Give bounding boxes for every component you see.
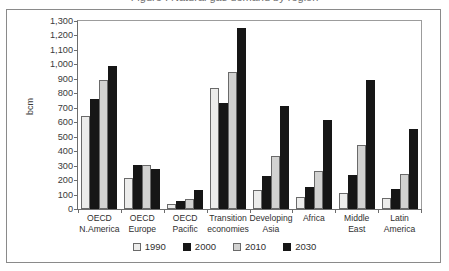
legend-item-2000[interactable]: 2000: [183, 242, 216, 251]
figure-title-text: Figure : Natural gas demand by region: [131, 0, 319, 3]
legend-label-2030: 2030: [295, 242, 316, 251]
x-axis-label-line1: Developing: [249, 213, 292, 223]
bar-2000-oecd-europe: [133, 165, 142, 209]
legend-item-2010[interactable]: 2010: [233, 242, 266, 251]
x-axis-label-oecd-pacific: OECDPacific: [164, 213, 207, 234]
bar-2010-oecd-pacific: [185, 199, 194, 209]
bar-2000-middle-east: [348, 175, 357, 209]
bar-2030-oecd-europe: [151, 169, 160, 209]
bar-1990-middle-east: [339, 193, 348, 209]
x-axis-label-line1: Transition: [209, 213, 246, 223]
x-axis-category-labels: OECDN.AmericaOECDEuropeOECDPacificTransi…: [78, 213, 421, 234]
bar-2030-africa: [323, 120, 332, 209]
bar-2000-oecd-pacific: [176, 201, 185, 209]
y-axis-tick-0: 0: [68, 205, 73, 214]
y-axis-tick-200: 200: [58, 176, 73, 185]
x-axis-label-middle-east: MiddleEast: [335, 213, 378, 234]
bar-group-oecd-pacific: [164, 21, 207, 209]
bar-2000-latin-america: [391, 189, 400, 209]
legend-label-2000: 2000: [195, 242, 216, 251]
legend-label-1990: 1990: [145, 242, 166, 251]
bar-1990-oecd-n-america: [81, 116, 90, 209]
bar-group-developing-asia: [250, 21, 293, 209]
x-axis-label-transition-economies: Transitioneconomies: [207, 213, 250, 234]
bar-2030-oecd-pacific: [194, 190, 203, 209]
legend-swatch-2010: [233, 243, 241, 251]
bar-2010-oecd-europe: [142, 165, 151, 209]
bar-group-transition-economies: [207, 21, 250, 209]
bar-2000-oecd-n-america: [90, 99, 99, 209]
x-axis-label-africa: Africa: [292, 213, 335, 234]
y-axis-tick-1,100: 1,100: [50, 45, 73, 54]
x-axis-label-line2: East: [335, 224, 378, 235]
bar-2030-oecd-n-america: [108, 66, 117, 209]
y-axis-tick-1,300: 1,300: [50, 17, 73, 26]
legend-item-1990[interactable]: 1990: [133, 242, 166, 251]
y-axis-tick-labels: 01002003004005006007008009001,0001,1001,…: [29, 20, 73, 210]
y-axis-tick-400: 400: [58, 147, 73, 156]
bar-2030-latin-america: [409, 129, 418, 209]
bar-group-oecd-n-america: [78, 21, 121, 209]
legend-label-2010: 2010: [245, 242, 266, 251]
x-axis-label-line1: Africa: [303, 213, 325, 223]
x-axis-label-line1: Middle: [344, 213, 369, 223]
figure-page: Figure : Natural gas demand by region bc…: [0, 0, 449, 271]
bar-groups: [78, 21, 421, 209]
bar-2000-transition-economies: [219, 103, 228, 209]
bar-2010-oecd-n-america: [99, 80, 108, 209]
figure-frame: bcm 01002003004005006007008009001,0001,1…: [6, 9, 441, 263]
bar-group-africa: [292, 21, 335, 209]
x-axis-label-line2: Asia: [249, 224, 292, 235]
bar-1990-developing-asia: [253, 190, 262, 209]
bar-2010-africa: [314, 171, 323, 209]
y-axis-tick-900: 900: [58, 74, 73, 83]
bar-1990-africa: [296, 197, 305, 209]
bar-group-latin-america: [378, 21, 421, 209]
x-axis-tick: [421, 209, 422, 213]
x-axis-label-line1: OECD: [130, 213, 155, 223]
y-axis-tick-300: 300: [58, 161, 73, 170]
bar-1990-oecd-europe: [124, 178, 133, 209]
x-axis-label-line1: Latin: [390, 213, 409, 223]
legend-item-2030[interactable]: 2030: [283, 242, 316, 251]
bar-2000-africa: [305, 187, 314, 209]
y-axis-tick-500: 500: [58, 132, 73, 141]
bar-group-middle-east: [335, 21, 378, 209]
bar-2030-developing-asia: [280, 106, 289, 209]
chart-legend: 1990200020102030: [7, 242, 442, 251]
legend-swatch-2000: [183, 243, 191, 251]
legend-swatch-1990: [133, 243, 141, 251]
bar-group-oecd-europe: [121, 21, 164, 209]
bar-1990-latin-america: [382, 198, 391, 209]
bar-2030-middle-east: [366, 80, 375, 209]
bar-2010-transition-economies: [228, 72, 237, 209]
x-axis-label-line2: Europe: [121, 224, 164, 235]
y-axis-tick-800: 800: [58, 89, 73, 98]
x-axis-label-line1: OECD: [87, 213, 112, 223]
x-axis-label-line2: Pacific: [164, 224, 207, 235]
y-axis-tick-700: 700: [58, 103, 73, 112]
y-axis-tick-1,000: 1,000: [50, 60, 73, 69]
x-axis-label-developing-asia: DevelopingAsia: [249, 213, 292, 234]
x-axis-label-oecd-europe: OECDEurope: [121, 213, 164, 234]
x-axis-label-line1: OECD: [173, 213, 198, 223]
y-axis-tick-100: 100: [58, 190, 73, 199]
x-axis-label-oecd-n-america: OECDN.America: [78, 213, 121, 234]
bar-2030-transition-economies: [237, 28, 246, 209]
legend-swatch-2030: [283, 243, 291, 251]
bar-2010-latin-america: [400, 174, 409, 209]
x-axis-label-line2: America: [378, 224, 421, 235]
bar-2010-middle-east: [357, 145, 366, 209]
x-axis-label-latin-america: LatinAmerica: [378, 213, 421, 234]
x-axis-label-line2: economies: [207, 224, 250, 235]
x-axis-label-line2: N.America: [78, 224, 121, 235]
bar-2010-developing-asia: [271, 156, 280, 209]
y-axis-tick-1,200: 1,200: [50, 31, 73, 40]
bar-1990-transition-economies: [210, 88, 219, 209]
clipped-figure-title: Figure : Natural gas demand by region: [0, 0, 449, 9]
y-axis-tick-600: 600: [58, 118, 73, 127]
chart-plot-area: bcm 01002003004005006007008009001,0001,1…: [7, 10, 442, 264]
bar-2000-developing-asia: [262, 176, 271, 209]
